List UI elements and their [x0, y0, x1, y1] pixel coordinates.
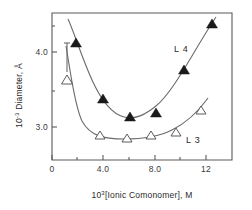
svg-text:10-3 Diameter, Å: 10-3 Diameter, Å: [14, 63, 25, 128]
x-axis-ticks: [52, 155, 206, 160]
y-axis-title-base: 10: [14, 118, 24, 128]
x-axis-title-base: 10: [91, 190, 101, 200]
series-L3-point-3: [146, 131, 156, 139]
y-axis-ticks: [52, 26, 57, 127]
chart-figure: 0 4.0 8.0 12 4.0 3.0 L 4: [0, 0, 252, 210]
y-tick-labels: 4.0 3.0: [36, 47, 48, 132]
x-axis-title: 103[Ionic Comonomer], M: [91, 190, 192, 201]
series-L3-curve: [66, 46, 208, 139]
x-tick-label-12: 12: [201, 164, 211, 174]
series-L4-point-2: [125, 112, 136, 121]
x-tick-label-8: 8.0: [149, 164, 161, 174]
x-axis-title-rest: [Ionic Comonomer], M: [105, 190, 193, 200]
series-L4-point-0: [71, 38, 82, 47]
svg-text:103[Ionic Comonomer], M: 103[Ionic Comonomer], M: [91, 190, 192, 201]
series-L4-label: L 4: [174, 44, 189, 54]
series-L3-label: L 3: [186, 135, 201, 145]
y-tick-label-3: 3.0: [36, 122, 48, 132]
x-tick-label-4: 4.0: [97, 164, 109, 174]
series-L4-curve: [68, 17, 216, 118]
series-L4-point-5: [207, 19, 218, 28]
series-L4-point-4: [179, 65, 190, 74]
series-L4-point-1: [98, 94, 109, 103]
diameter-vs-comonomer-chart: 0 4.0 8.0 12 4.0 3.0 L 4: [0, 0, 252, 210]
series-L3-point-2: [122, 134, 132, 142]
x-tick-labels: 0 4.0 8.0 12: [50, 164, 211, 174]
y-axis-title-rest: Diameter, Å: [14, 63, 24, 112]
y-tick-label-4: 4.0: [36, 47, 48, 57]
x-tick-label-0: 0: [50, 164, 55, 174]
series-L4: L 4: [68, 17, 218, 121]
y-axis-title: 10-3 Diameter, Å: [14, 63, 25, 128]
